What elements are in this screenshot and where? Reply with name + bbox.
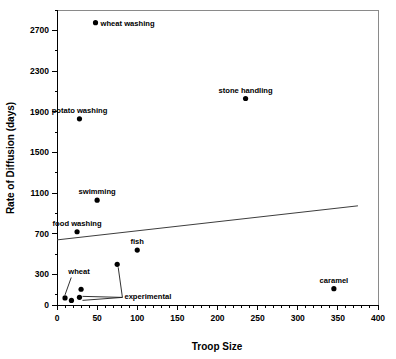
data-point-label: fish [130, 237, 144, 246]
plot-svg: 050100150200250300350400 030070011001500… [0, 0, 396, 359]
data-point-marker [69, 298, 74, 303]
x-tick-label: 150 [170, 313, 184, 323]
data-point-label: potato washing [52, 106, 108, 115]
y-tick-label: 1100 [31, 188, 50, 198]
annotation-label-experimental: experimental [124, 292, 171, 301]
data-point-marker [243, 96, 248, 101]
x-tick-label: 200 [210, 313, 224, 323]
y-axis-title: Rate of Diffusion (days) [5, 102, 16, 214]
scatter-chart: 050100150200250300350400 030070011001500… [0, 0, 396, 359]
data-point-marker [331, 286, 336, 291]
y-tick-label: 1500 [30, 147, 49, 157]
data-point-marker [135, 247, 140, 252]
data-point-marker [93, 20, 98, 25]
x-tick-label: 50 [92, 313, 102, 323]
data-point-label: stone handling [219, 86, 273, 95]
data-point-label: swimming [79, 187, 116, 196]
x-tick-label: 100 [130, 313, 144, 323]
y-tick-label: 1900 [30, 107, 49, 117]
y-tick-label: 0 [44, 300, 49, 310]
annotation-label-wheat: wheat [67, 267, 90, 276]
data-point-marker [62, 295, 67, 300]
y-tick-label: 700 [35, 229, 49, 239]
data-point-label: caramel [320, 276, 349, 285]
data-point-marker [78, 287, 83, 292]
data-point-marker [95, 198, 100, 203]
x-tick-label: 350 [331, 313, 345, 323]
x-axis-title: Troop Size [192, 341, 243, 352]
y-tick-label: 2700 [30, 25, 49, 35]
y-tick-label: 300 [35, 269, 49, 279]
data-point-marker [74, 229, 79, 234]
data-point-marker [77, 116, 82, 121]
x-tick-label: 400 [371, 313, 385, 323]
data-point-marker [77, 295, 82, 300]
x-tick-label: 0 [55, 313, 60, 323]
x-tick-label: 300 [291, 313, 305, 323]
data-point-marker [115, 262, 120, 267]
x-tick-label: 250 [251, 313, 265, 323]
data-point-label: food washing [53, 219, 102, 228]
y-tick-label: 2300 [30, 66, 49, 76]
data-point-label: wheat washing [100, 19, 155, 28]
